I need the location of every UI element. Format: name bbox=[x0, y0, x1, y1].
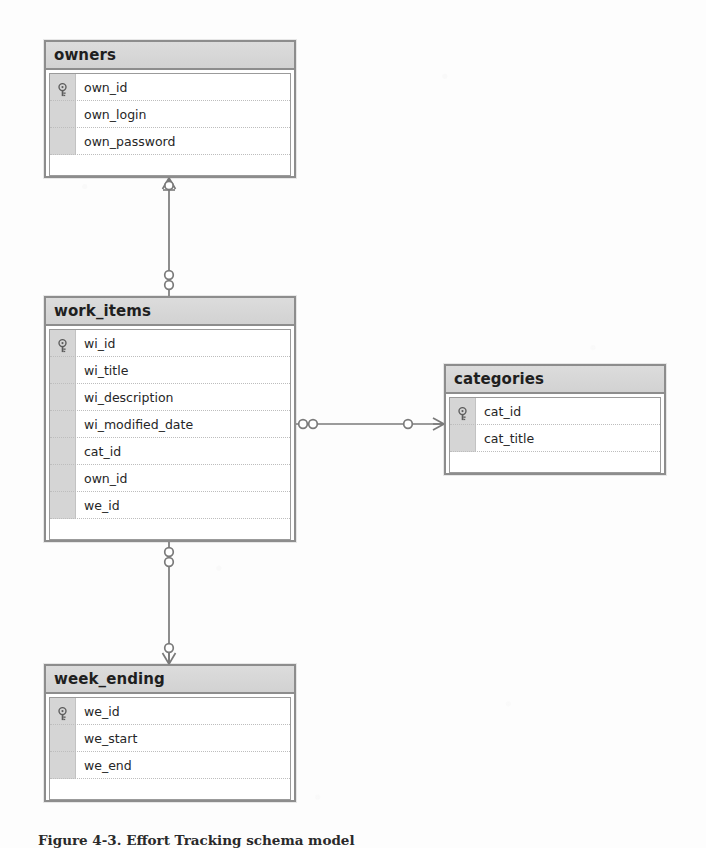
entity-week-ending-attribute-list: we_id we_start we_end bbox=[49, 697, 291, 800]
attribute-row[interactable]: own_login bbox=[50, 101, 290, 128]
relationship-work-items-categories[interactable] bbox=[296, 418, 444, 430]
attribute-name: cat_title bbox=[484, 431, 534, 446]
key-icon bbox=[456, 404, 469, 419]
attribute-row[interactable]: own_id bbox=[50, 465, 290, 492]
entity-work-items-attribute-list: wi_id wi_title wi_description wi_modifie… bbox=[49, 329, 291, 540]
entity-owners[interactable]: owners own_id own_login bbox=[44, 40, 296, 178]
attribute-name: wi_title bbox=[84, 363, 128, 378]
attribute-name: own_password bbox=[84, 134, 175, 149]
key-icon bbox=[56, 80, 69, 95]
entity-body-filler bbox=[450, 452, 660, 472]
entity-week-ending[interactable]: week_ending we_id we_start bbox=[44, 664, 296, 802]
attribute-name: cat_id bbox=[84, 444, 121, 459]
figure-caption: Figure 4-3. Effort Tracking schema model bbox=[38, 832, 355, 848]
entity-work-items[interactable]: work_items wi_id wi_title bbox=[44, 296, 296, 542]
attribute-row[interactable]: wi_modified_date bbox=[50, 411, 290, 438]
entity-body-filler bbox=[50, 519, 290, 539]
entity-owners-attribute-list: own_id own_login own_password bbox=[49, 73, 291, 176]
entity-owners-title: owners bbox=[46, 42, 294, 70]
attribute-name: own_id bbox=[84, 471, 127, 486]
entity-categories-title: categories bbox=[446, 366, 664, 394]
attribute-row[interactable]: we_id bbox=[50, 698, 290, 725]
diagram-page: owners own_id own_login bbox=[0, 0, 706, 848]
attribute-row[interactable]: cat_id bbox=[450, 398, 660, 425]
entity-categories-attribute-list: cat_id cat_title bbox=[449, 397, 661, 473]
attribute-name: we_end bbox=[84, 758, 132, 773]
entity-body-filler bbox=[50, 155, 290, 175]
attribute-name: wi_description bbox=[84, 390, 173, 405]
attribute-row[interactable]: own_password bbox=[50, 128, 290, 155]
gutter-end-cap bbox=[50, 155, 75, 175]
attribute-name: we_start bbox=[84, 731, 137, 746]
gutter-end-cap bbox=[50, 519, 75, 539]
attribute-row[interactable]: we_id bbox=[50, 492, 290, 519]
attribute-name: we_id bbox=[84, 704, 120, 719]
attribute-name: cat_id bbox=[484, 404, 521, 419]
attribute-name: own_login bbox=[84, 107, 147, 122]
entity-body-filler bbox=[50, 779, 290, 799]
key-icon bbox=[56, 704, 69, 719]
gutter-end-cap bbox=[50, 779, 75, 799]
attribute-name: wi_id bbox=[84, 336, 115, 351]
relationship-work-items-week-ending[interactable] bbox=[163, 542, 176, 664]
attribute-name: we_id bbox=[84, 498, 120, 513]
entity-work-items-title: work_items bbox=[46, 298, 294, 326]
attribute-row[interactable]: own_id bbox=[50, 74, 290, 101]
attribute-name: own_id bbox=[84, 80, 127, 95]
attribute-row[interactable]: cat_id bbox=[50, 438, 290, 465]
attribute-name: wi_modified_date bbox=[84, 417, 193, 432]
entity-categories[interactable]: categories cat_id cat_title bbox=[444, 364, 666, 475]
attribute-row[interactable]: wi_id bbox=[50, 330, 290, 357]
relationship-owners-work-items[interactable] bbox=[163, 178, 176, 296]
gutter-end-cap bbox=[450, 452, 475, 472]
attribute-row[interactable]: wi_title bbox=[50, 357, 290, 384]
attribute-row[interactable]: we_start bbox=[50, 725, 290, 752]
attribute-row[interactable]: cat_title bbox=[450, 425, 660, 452]
attribute-row[interactable]: wi_description bbox=[50, 384, 290, 411]
key-icon bbox=[56, 336, 69, 351]
attribute-row[interactable]: we_end bbox=[50, 752, 290, 779]
entity-week-ending-title: week_ending bbox=[46, 666, 294, 694]
